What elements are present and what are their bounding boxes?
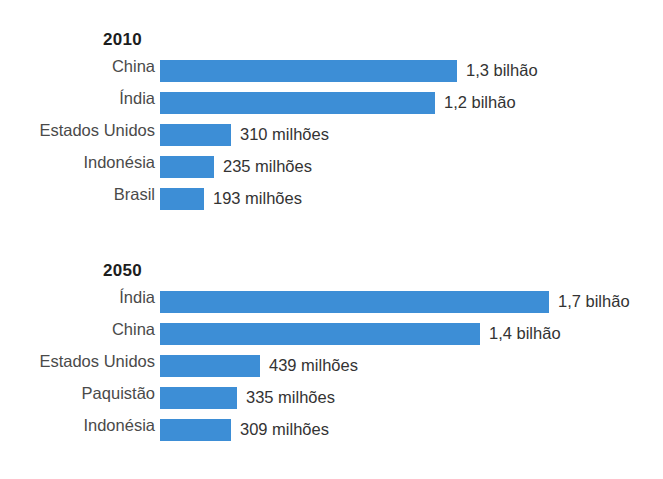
bar (160, 188, 204, 210)
bar-value-label: 1,4 bilhão (489, 324, 561, 343)
bar-track: 310 milhões (160, 124, 663, 146)
bar-value-label: 439 milhões (269, 356, 358, 375)
bar (160, 387, 237, 409)
bar (160, 323, 480, 345)
bar-track: 235 milhões (160, 156, 663, 178)
panel-title-2010: 2010 (103, 30, 142, 50)
category-label: China (0, 320, 155, 339)
bar-value-label: 235 milhões (223, 157, 312, 176)
category-label: Indonésia (0, 153, 155, 172)
category-label: Índia (0, 89, 155, 108)
bar-value-label: 335 milhões (246, 388, 335, 407)
category-label: Estados Unidos (0, 121, 155, 140)
bar-value-label: 1,2 bilhão (444, 93, 516, 112)
bar-row: Estados Unidos439 milhões (0, 350, 663, 382)
bar-rows-2010: China1,3 bilhãoÍndia1,2 bilhãoEstados Un… (0, 55, 663, 215)
bar-track: 335 milhões (160, 387, 663, 409)
bar-track: 1,3 bilhão (160, 60, 663, 82)
population-bar-chart: 2010 China1,3 bilhãoÍndia1,2 bilhãoEstad… (0, 0, 663, 479)
bar (160, 419, 231, 441)
bar-row: Índia1,2 bilhão (0, 87, 663, 119)
bar-row: Brasil193 milhões (0, 183, 663, 215)
category-label: Brasil (0, 185, 155, 204)
category-label: China (0, 57, 155, 76)
bar-track: 193 milhões (160, 188, 663, 210)
bar-rows-2050: Índia1,7 bilhãoChina1,4 bilhãoEstados Un… (0, 286, 663, 446)
bar-row: China1,4 bilhão (0, 318, 663, 350)
bar-value-label: 193 milhões (213, 189, 302, 208)
panel-title-2050: 2050 (103, 261, 142, 281)
category-label: Índia (0, 288, 155, 307)
bar-row: Indonésia309 milhões (0, 414, 663, 446)
bar (160, 124, 231, 146)
bar-row: China1,3 bilhão (0, 55, 663, 87)
bar-track: 439 milhões (160, 355, 663, 377)
bar-row: Paquistão335 milhões (0, 382, 663, 414)
bar (160, 355, 260, 377)
category-label: Paquistão (0, 384, 155, 403)
bar-value-label: 310 milhões (240, 125, 329, 144)
bar-track: 309 milhões (160, 419, 663, 441)
bar (160, 92, 435, 114)
bar-row: Estados Unidos310 milhões (0, 119, 663, 151)
bar-row: Índia1,7 bilhão (0, 286, 663, 318)
bar-value-label: 1,7 bilhão (558, 292, 630, 311)
bar-row: Indonésia235 milhões (0, 151, 663, 183)
bar (160, 291, 549, 313)
bar-track: 1,4 bilhão (160, 323, 663, 345)
bar-value-label: 309 milhões (240, 420, 329, 439)
bar-track: 1,7 bilhão (160, 291, 663, 313)
category-label: Indonésia (0, 416, 155, 435)
bar (160, 156, 214, 178)
category-label: Estados Unidos (0, 352, 155, 371)
bar-track: 1,2 bilhão (160, 92, 663, 114)
bar-value-label: 1,3 bilhão (466, 61, 538, 80)
bar (160, 60, 457, 82)
